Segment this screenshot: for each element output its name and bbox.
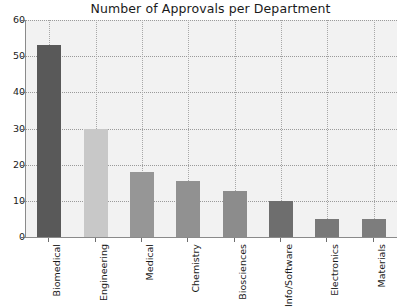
x-axis-tick-mark <box>373 238 374 242</box>
x-axis-tick-label: Chemistry <box>191 244 201 293</box>
page-title: Number of Approvals per Department <box>25 1 396 16</box>
x-axis-tick-label: Biosciences <box>238 244 248 300</box>
bar[interactable] <box>130 172 154 237</box>
gridline-vertical <box>327 20 328 237</box>
x-axis-tick-label: Materials <box>377 244 387 288</box>
gridline-vertical <box>374 20 375 237</box>
x-axis-tick-label: Electronics <box>330 244 340 296</box>
bar[interactable] <box>37 45 61 237</box>
gridline-horizontal <box>26 20 397 21</box>
x-axis-tick-mark <box>326 238 327 242</box>
x-axis-tick-mark <box>234 238 235 242</box>
gridlines <box>26 20 397 237</box>
x-axis-tick-label: Engineering <box>99 244 109 301</box>
bar[interactable] <box>362 219 386 237</box>
x-axis-tick-mark <box>48 238 49 242</box>
bar[interactable] <box>176 181 200 237</box>
bar[interactable] <box>223 191 247 237</box>
gridline-horizontal <box>26 201 397 202</box>
x-axis-tick-mark <box>95 238 96 242</box>
bar[interactable] <box>315 219 339 237</box>
gridline-horizontal <box>26 129 397 130</box>
gridline-horizontal <box>26 56 397 57</box>
x-axis-tick-mark <box>280 238 281 242</box>
x-axis-tick-label: Info/Software <box>284 244 294 307</box>
x-axis: BiomedicalEngineeringMedicalChemistryBio… <box>25 238 396 298</box>
x-axis-tick-label: Medical <box>145 244 155 280</box>
bar[interactable] <box>84 129 108 238</box>
y-axis: 0102030405060 <box>0 20 25 237</box>
gridline-horizontal <box>26 92 397 93</box>
gridline-horizontal <box>26 165 397 166</box>
x-axis-tick-mark <box>187 238 188 242</box>
x-axis-tick-label: Biomedical <box>52 244 62 296</box>
plot-area <box>25 20 397 238</box>
x-axis-tick-mark <box>141 238 142 242</box>
bar[interactable] <box>269 201 293 237</box>
